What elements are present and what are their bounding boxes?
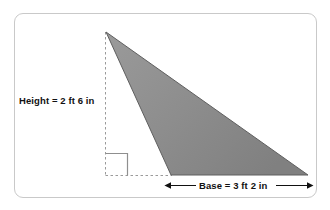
right-angle-icon [106, 154, 128, 176]
base-label: Base = 3 ft 2 in [199, 180, 267, 191]
height-label: Height = 2 ft 6 in [19, 95, 95, 106]
triangle-figure-svg: Height = 2 ft 6 in Base = 3 ft 2 in [0, 0, 330, 210]
triangle-shape [106, 32, 308, 175]
